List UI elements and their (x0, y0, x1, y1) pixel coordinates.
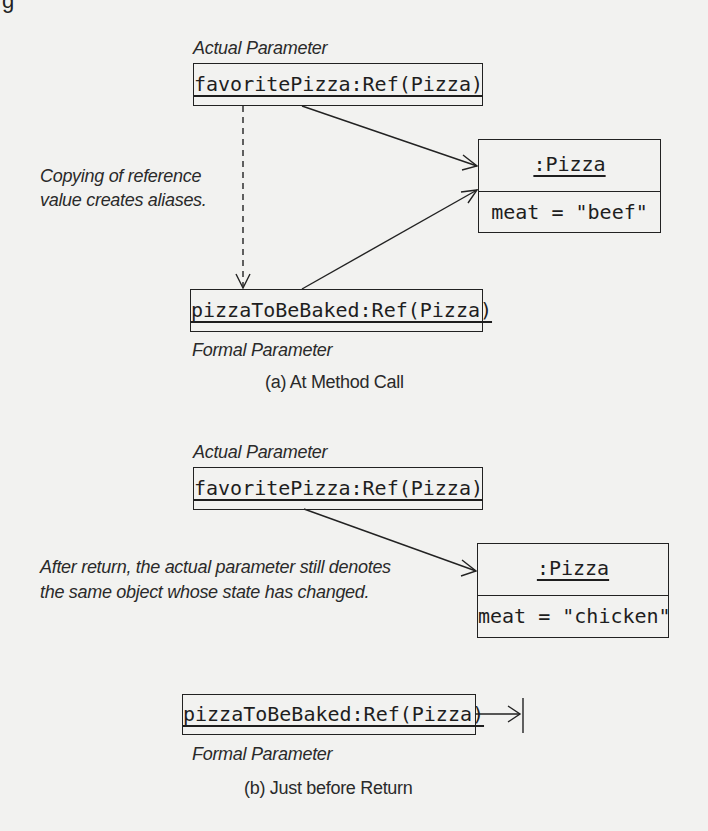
actual-parameter-label-b: Actual Parameter (193, 442, 327, 463)
object-divider-a (479, 191, 660, 192)
actual-parameter-name-a: favoritePizza:Ref(Pizza) (194, 72, 482, 96)
pizza-attribute-b: meat = "chicken" (478, 604, 668, 628)
pizza-object-name-a: :Pizza (479, 152, 660, 176)
formal-parameter-name-a: pizzaToBeBaked:Ref(Pizza) (191, 298, 482, 322)
pizza-attribute-a: meat = "beef" (479, 200, 660, 224)
actual-parameter-label-a: Actual Parameter (193, 38, 327, 59)
actual-parameter-box-b: favoritePizza:Ref(Pizza) (193, 467, 483, 510)
actual-parameter-name-b: favoritePizza:Ref(Pizza) (194, 476, 482, 500)
pizza-object-box-a: :Pizza meat = "beef" (478, 139, 661, 233)
formal-reference-arrow (302, 190, 477, 289)
actual-parameter-box-a: favoritePizza:Ref(Pizza) (193, 63, 483, 106)
formal-parameter-box-b: pizzaToBeBaked:Ref(Pizza) (182, 694, 476, 735)
pizza-object-box-b: :Pizza meat = "chicken" (477, 543, 669, 638)
formal-parameter-box-a: pizzaToBeBaked:Ref(Pizza) (190, 289, 483, 332)
state-change-note-line2: the same object whose state has changed. (40, 582, 369, 603)
state-change-note-line1: After return, the actual parameter still… (40, 557, 391, 578)
formal-parameter-label-b: Formal Parameter (192, 744, 332, 765)
aliasing-note-line2: value creates aliases. (40, 190, 207, 211)
caption-b: (b) Just before Return (244, 778, 412, 799)
pizza-object-name-b: :Pizza (478, 556, 668, 580)
actual-reference-arrow (302, 106, 477, 166)
formal-parameter-label-a: Formal Parameter (192, 340, 332, 361)
caption-a: (a) At Method Call (265, 372, 404, 393)
actual-reference-arrow-head (462, 155, 477, 170)
object-divider-b (478, 595, 668, 596)
aliasing-note-line1: Copying of reference (40, 166, 201, 187)
formal-parameter-name-b: pizzaToBeBaked:Ref(Pizza) (183, 702, 475, 726)
